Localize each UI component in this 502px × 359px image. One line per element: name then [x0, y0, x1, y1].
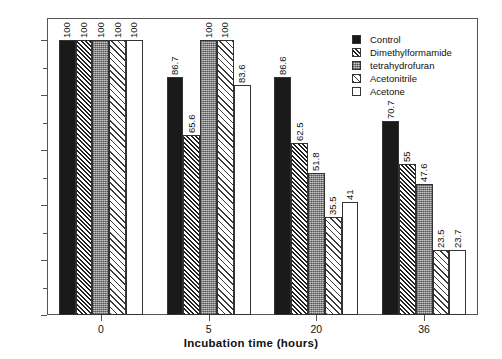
x-axis-tick-label: 5: [179, 323, 239, 335]
legend-item-label: tetrahydrofuran: [370, 60, 434, 71]
bar-value-label: 47.6: [419, 153, 429, 182]
bar: [382, 121, 399, 315]
legend-item: Dimethylformamide: [352, 46, 476, 58]
bar: [416, 184, 433, 315]
x-axis-tick: [424, 315, 425, 321]
bar: [92, 40, 109, 315]
bar-value-label: 62.5: [295, 112, 305, 141]
bar-value-label: 100: [129, 9, 139, 38]
bar: [291, 143, 308, 315]
bar-value-label: 65.6: [187, 104, 197, 133]
bar-value-label: 83.6: [237, 54, 247, 83]
legend-item: tetrahydrofuran: [352, 59, 476, 71]
bar-value-label: 35.5: [328, 186, 338, 215]
x-axis-tick-label: 20: [286, 323, 346, 335]
bar-value-label: 41: [345, 171, 355, 200]
bar: [399, 164, 416, 315]
bar: [234, 85, 251, 315]
bar-value-label: 51.8: [311, 142, 321, 171]
x-axis-tick-label: 36: [394, 323, 454, 335]
bar-value-label: 55: [402, 133, 412, 162]
legend-item-label: Acetone: [370, 86, 405, 97]
x-axis-tick: [209, 315, 210, 321]
bar: [449, 250, 466, 315]
bar-value-label: 100: [79, 9, 89, 38]
bar-value-label: 100: [113, 9, 123, 38]
legend-swatch-icon: [352, 35, 361, 44]
bar-value-label: 100: [204, 9, 214, 38]
bar: [217, 40, 234, 315]
legend-item-label: Acetonitrile: [370, 73, 417, 84]
bar: [200, 40, 217, 315]
bar: [183, 135, 200, 315]
x-axis-tick: [316, 315, 317, 321]
legend-item: Acetone: [352, 85, 476, 97]
legend-item-label: Dimethylformamide: [370, 47, 452, 58]
x-axis-tick-label: 0: [71, 323, 131, 335]
legend-item-label: Control: [370, 34, 401, 45]
bar: [274, 77, 291, 315]
legend-item: Acetonitrile: [352, 72, 476, 84]
bar: [59, 40, 76, 315]
x-axis-tick: [101, 315, 102, 321]
x-axis-title: Incubation time (hours): [0, 337, 502, 349]
bar-value-label: 23.7: [453, 219, 463, 248]
legend-swatch-icon: [352, 87, 361, 96]
legend-swatch-icon: [352, 74, 361, 83]
legend-swatch-icon: [352, 48, 361, 57]
bar-value-label: 100: [62, 9, 72, 38]
legend-swatch-icon: [352, 61, 361, 70]
bar-value-label: 100: [96, 9, 106, 38]
bar: [342, 202, 359, 315]
bar: [126, 40, 143, 315]
bar-value-label: 100: [220, 9, 230, 38]
bar-value-label: 86.6: [278, 46, 288, 75]
bar: [109, 40, 126, 315]
bar-value-label: 86.7: [170, 46, 180, 75]
legend-item: Control: [352, 33, 476, 45]
bar-value-label: 23.5: [436, 219, 446, 248]
bar: [308, 173, 325, 315]
bar: [325, 217, 342, 315]
bar: [76, 40, 93, 315]
bar-chart-figure: 020406080100 Relative activity (%) 10010…: [0, 0, 502, 359]
legend: ControlDimethylformamidetetrahydrofuranA…: [352, 33, 476, 98]
bar: [167, 77, 184, 315]
bar: [433, 250, 450, 315]
